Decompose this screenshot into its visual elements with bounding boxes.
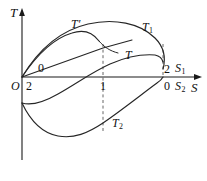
t2-subscript: 2 xyxy=(119,122,123,131)
lower-curves-group xyxy=(22,77,163,137)
t-prime-mark: ′ xyxy=(78,17,81,31)
t1-subscript: 1 xyxy=(149,26,153,35)
tick-label-origin-above: 0 xyxy=(38,62,44,74)
curve-label-t1: T1 xyxy=(142,21,153,35)
t1-base: T xyxy=(142,20,149,34)
t-s-diagram-figure: T S O 2 0 1 2 0 S1 S2 T′ T1 T T2 xyxy=(0,0,207,181)
axis-label-temperature: T xyxy=(10,6,17,19)
tick-label-right-above: 2 xyxy=(164,63,170,75)
tick-label-origin-below: 2 xyxy=(26,80,32,92)
s2-subscript: 2 xyxy=(181,85,185,94)
t2-base: T xyxy=(112,116,119,130)
t-prime-base: T xyxy=(71,17,78,31)
axis-series-label-s1: S1 xyxy=(175,62,185,76)
curve-label-t2: T2 xyxy=(112,117,123,131)
tick-label-right-below: 0 xyxy=(164,80,170,92)
curve-label-t-plain: T xyxy=(125,49,132,61)
origin-label: O xyxy=(11,80,20,92)
tick-label-mid: 1 xyxy=(100,80,106,92)
temperature-axis-arrowhead xyxy=(19,8,25,16)
axis-label-entropy: S xyxy=(191,81,198,94)
curve-t2 xyxy=(22,77,163,137)
curve-t-prime xyxy=(22,31,99,77)
axis-series-label-s2: S2 xyxy=(175,80,185,94)
curve-label-t-prime: T′ xyxy=(71,18,80,30)
s1-subscript: 1 xyxy=(181,67,185,76)
